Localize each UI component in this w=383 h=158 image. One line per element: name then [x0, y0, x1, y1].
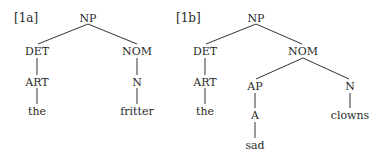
leaf-sad: sad	[245, 140, 264, 151]
tree-edge	[303, 58, 349, 79]
tree-edge	[38, 24, 88, 44]
node-n: N	[132, 77, 142, 88]
node-det: DET	[193, 46, 217, 57]
tree-edge	[206, 24, 256, 44]
node-np: NP	[247, 13, 264, 24]
leaf-the: the	[28, 106, 46, 117]
tree-label-1a: [1a]	[14, 12, 38, 24]
node-det: DET	[25, 46, 49, 57]
node-np: NP	[79, 13, 96, 24]
node-nom: NOM	[288, 46, 318, 57]
node-n: N	[345, 81, 355, 92]
node-art: ART	[25, 77, 48, 88]
tree-label-1b: [1b]	[176, 12, 201, 24]
leaf-the: the	[196, 106, 214, 117]
leaf-fritter: fritter	[120, 106, 153, 117]
node-ap: AP	[247, 81, 262, 92]
syntax-tree-diagram: [1a] NP DET NOM ART N the fritter [1b] N…	[0, 0, 383, 158]
node-a: A	[251, 110, 259, 121]
tree-edge	[256, 24, 302, 44]
tree-edge	[256, 58, 303, 79]
node-nom: NOM	[122, 46, 152, 57]
node-art: ART	[193, 77, 216, 88]
leaf-clowns: clowns	[331, 110, 369, 121]
tree-edge	[88, 24, 137, 44]
